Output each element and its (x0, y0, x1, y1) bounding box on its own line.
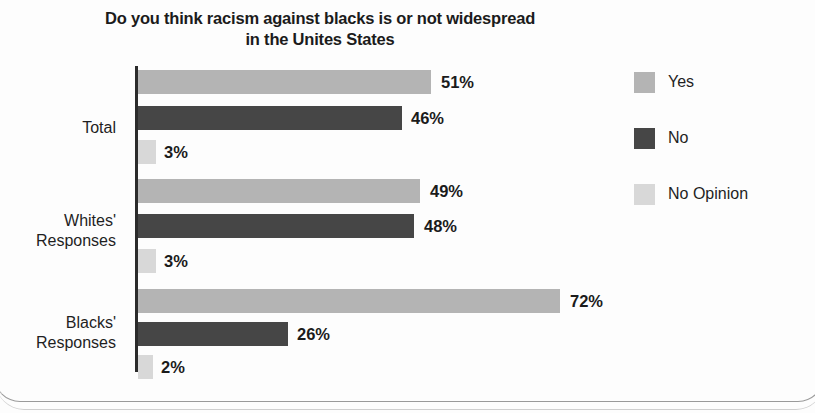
bar-whites-yes[interactable] (138, 179, 420, 203)
bar-value-blacks-no: 26% (297, 322, 330, 346)
bar-value-whites-no-opinion: 3% (164, 249, 188, 273)
bar-whites-no-opinion[interactable] (138, 249, 156, 273)
category-label-total: Total (0, 118, 116, 138)
bar-blacks-no[interactable] (138, 322, 288, 346)
legend-swatch-no-opinion-icon (634, 184, 655, 205)
category-label-blacks-responses: Blacks' Responses (0, 313, 116, 353)
bar-value-whites-no: 48% (424, 214, 457, 238)
bar-blacks-no-opinion[interactable] (138, 355, 153, 379)
bar-total-no-opinion[interactable] (138, 140, 156, 164)
bar-value-total-no-opinion: 3% (164, 140, 188, 164)
bar-total-yes[interactable] (138, 70, 431, 94)
legend-swatch-yes-icon (634, 72, 655, 93)
legend-label-no-opinion: No Opinion (668, 182, 748, 206)
scanned-page: Do you think racism against blacks is or… (0, 0, 815, 413)
legend-item-no-opinion[interactable]: No Opinion (634, 182, 809, 238)
category-label-whites-responses: Whites' Responses (0, 211, 116, 251)
legend-label-yes: Yes (668, 70, 694, 94)
bar-value-total-yes: 51% (441, 70, 474, 94)
bar-value-blacks-yes: 72% (570, 289, 603, 313)
bar-whites-no[interactable] (138, 214, 414, 238)
bar-blacks-yes[interactable] (138, 289, 560, 313)
chart-legend: Yes No No Opinion (634, 70, 809, 238)
bar-value-whites-yes: 49% (430, 179, 463, 203)
legend-item-yes[interactable]: Yes (634, 70, 809, 126)
legend-label-no: No (668, 126, 688, 150)
bar-value-total-no: 46% (411, 106, 444, 130)
bar-total-no[interactable] (138, 106, 402, 130)
legend-swatch-no-icon (634, 128, 655, 149)
bar-value-blacks-no-opinion: 2% (161, 355, 185, 379)
legend-item-no[interactable]: No (634, 126, 809, 182)
